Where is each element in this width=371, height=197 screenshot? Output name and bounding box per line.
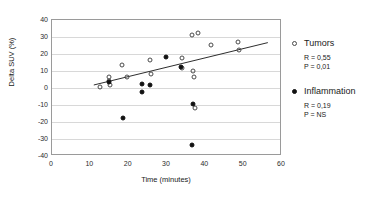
data-point-tumors <box>148 72 153 77</box>
data-point-tumors <box>120 63 125 68</box>
x-tick-label: 20 <box>116 160 140 167</box>
data-point-tumors <box>190 33 195 38</box>
regression-line <box>52 20 280 154</box>
data-point-inflammation <box>107 80 112 85</box>
data-point-tumors <box>179 55 184 60</box>
chart-legend: Tumors R = 0,55 P = 0,01 Inflammation R … <box>292 38 371 134</box>
tumors-r-value: R = 0,55 <box>304 53 371 62</box>
legend-entry-inflammation: Inflammation <box>292 86 371 96</box>
data-point-tumors <box>191 75 196 80</box>
data-point-tumors <box>196 31 201 36</box>
inflammation-p-value: P = NS <box>304 110 371 119</box>
x-axis-title: Time (minutes) <box>51 176 281 184</box>
tumors-p-value: P = 0,01 <box>304 62 371 71</box>
x-tick-label: 50 <box>231 160 255 167</box>
data-point-tumors <box>147 57 152 62</box>
data-point-tumors <box>209 43 214 48</box>
legend-entry-tumors: Tumors <box>292 38 371 48</box>
data-point-inflammation <box>164 54 169 59</box>
scatter-chart-figure: Delta SUV (%) 403020100-10-20-30-40 0102… <box>0 0 371 197</box>
y-tick-label: -30 <box>26 135 48 142</box>
x-tick-label: 10 <box>77 160 101 167</box>
x-axis-tick-labels: 0102030405060 <box>51 160 281 170</box>
y-axis-tick-labels: 403020100-10-20-30-40 <box>22 19 48 155</box>
data-point-inflammation <box>140 90 145 95</box>
data-point-inflammation <box>148 83 153 88</box>
y-tick-label: 20 <box>26 50 48 57</box>
data-point-inflammation <box>189 142 194 147</box>
legend-label-inflammation: Inflammation <box>304 86 356 96</box>
data-point-inflammation <box>179 65 184 70</box>
data-point-inflammation <box>120 115 125 120</box>
y-tick-label: -20 <box>26 118 48 125</box>
data-point-tumors <box>125 75 130 80</box>
y-tick-label: 0 <box>26 84 48 91</box>
y-tick-label: 40 <box>26 16 48 23</box>
data-point-inflammation <box>140 82 145 87</box>
x-tick-label: 40 <box>192 160 216 167</box>
x-tick-label: 60 <box>269 160 293 167</box>
y-tick-label: 30 <box>26 33 48 40</box>
data-point-tumors <box>191 69 196 74</box>
y-tick-label: -40 <box>26 152 48 159</box>
filled-circle-marker-icon <box>292 89 297 94</box>
data-point-tumors <box>236 47 241 52</box>
legend-label-tumors: Tumors <box>304 38 334 48</box>
x-tick-label: 0 <box>39 160 63 167</box>
data-point-inflammation <box>191 102 196 107</box>
plot-frame <box>51 19 281 155</box>
legend-group-inflammation: Inflammation R = 0,19 P = NS <box>292 86 371 119</box>
legend-group-tumors: Tumors R = 0,55 P = 0,01 <box>292 38 371 71</box>
x-tick-label: 30 <box>154 160 178 167</box>
y-axis-title: Delta SUV (%) <box>8 27 16 97</box>
data-point-tumors <box>235 40 240 45</box>
y-tick-label: -10 <box>26 101 48 108</box>
y-tick-label: 10 <box>26 67 48 74</box>
inflammation-r-value: R = 0,19 <box>304 101 371 110</box>
open-circle-marker-icon <box>292 41 297 46</box>
plot-area <box>52 20 280 154</box>
data-point-tumors <box>98 85 103 90</box>
